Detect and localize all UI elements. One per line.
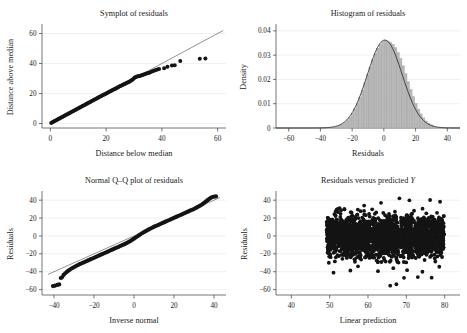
svg-text:20: 20 [170,302,178,310]
svg-text:60: 60 [29,30,37,38]
panel-histogram: 00.010.020.030.04−60−40−2002040Residuals… [234,0,467,166]
svg-text:0: 0 [267,233,271,241]
residual-cloud [325,207,446,265]
svg-text:Symplot of residuals: Symplot of residuals [100,9,168,18]
panel-residuals-vs-predicted: −60−40−20020404050607080Linear predictio… [234,167,467,333]
svg-text:−20: −20 [259,250,271,258]
histogram-bars [333,40,435,128]
svg-text:−60: −60 [283,135,295,143]
svg-text:Distance above median: Distance above median [6,39,15,115]
svg-text:20: 20 [103,135,111,143]
svg-text:Histogram of residuals: Histogram of residuals [331,9,406,18]
symplot-canvas: 02040600204060Distance below medianDista… [0,0,233,166]
svg-text:−20: −20 [88,302,100,310]
svg-text:40: 40 [29,197,37,205]
svg-text:50: 50 [326,302,334,310]
residuals-vs-predicted-canvas: −60−40−20020404050607080Linear predictio… [234,167,467,333]
svg-text:Residuals versus predicted Y: Residuals versus predicted Y [321,176,416,185]
svg-text:−40: −40 [315,135,327,143]
qq-plot-canvas: −60−40−2002040−40−2002040Inverse normalR… [0,167,233,333]
svg-text:40: 40 [444,135,452,143]
svg-text:−20: −20 [25,250,37,258]
svg-text:−60: −60 [259,286,271,294]
svg-text:20: 20 [412,135,420,143]
svg-text:40: 40 [263,197,271,205]
svg-text:−40: −40 [48,302,60,310]
svg-text:Density: Density [239,63,248,89]
svg-text:0: 0 [33,233,37,241]
svg-text:−20: −20 [347,135,359,143]
svg-text:40: 40 [158,135,166,143]
svg-text:−40: −40 [25,268,37,276]
data-points [49,56,207,125]
svg-text:0.01: 0.01 [258,100,271,108]
svg-text:0.04: 0.04 [258,27,271,35]
residual-diagnostics-figure: 02040600204060Distance below medianDista… [0,0,467,333]
histogram-canvas: 00.010.020.030.04−60−40−2002040Residuals… [234,0,467,166]
svg-text:Linear prediction: Linear prediction [340,316,397,325]
panel-qq-plot: −60−40−2002040−40−2002040Inverse normalR… [0,167,233,333]
svg-text:Normal Q–Q plot of residuals: Normal Q–Q plot of residuals [85,176,183,185]
svg-text:0: 0 [132,302,136,310]
svg-text:Residuals: Residuals [240,228,249,260]
svg-text:40: 40 [288,302,296,310]
svg-text:60: 60 [364,302,372,310]
svg-text:20: 20 [29,90,37,98]
svg-text:80: 80 [441,302,449,310]
svg-text:0: 0 [33,120,37,128]
data-points [51,194,218,288]
svg-text:−40: −40 [259,268,271,276]
panel-symplot: 02040600204060Distance below medianDista… [0,0,233,166]
svg-text:40: 40 [210,302,218,310]
svg-text:Distance below median: Distance below median [96,149,173,158]
svg-text:40: 40 [29,60,37,68]
svg-text:Inverse normal: Inverse normal [109,316,159,325]
svg-text:−60: −60 [25,286,37,294]
svg-text:20: 20 [263,215,271,223]
svg-text:0: 0 [49,135,53,143]
svg-text:20: 20 [29,215,37,223]
svg-text:0.02: 0.02 [258,76,271,84]
svg-text:60: 60 [214,135,222,143]
svg-text:70: 70 [403,302,411,310]
svg-text:Residuals: Residuals [6,228,15,260]
svg-text:0: 0 [267,125,271,133]
svg-text:Residuals: Residuals [352,149,384,158]
svg-text:0: 0 [382,135,386,143]
svg-text:0.03: 0.03 [258,52,271,60]
